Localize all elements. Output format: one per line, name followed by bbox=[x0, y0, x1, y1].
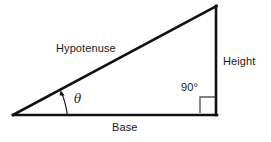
right-angle-label: 90° bbox=[181, 81, 198, 93]
right-angle-square-icon bbox=[200, 97, 216, 113]
theta-leader-line bbox=[62, 92, 68, 116]
height-label: Height bbox=[223, 55, 255, 67]
triangle-diagram: Hypotenuse Height 90° Base θ bbox=[0, 0, 271, 142]
hypotenuse-label: Hypotenuse bbox=[56, 42, 116, 54]
hypotenuse-line bbox=[13, 6, 217, 115]
theta-label: θ bbox=[74, 93, 81, 105]
base-label: Base bbox=[112, 121, 137, 133]
